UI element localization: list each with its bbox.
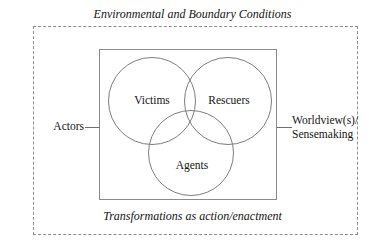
venn-label-agents: Agents bbox=[158, 160, 226, 172]
worldview-label-line1: Worldview(s)/ bbox=[292, 114, 382, 128]
diagram-canvas: Environmental and Boundary Conditions Vi… bbox=[0, 0, 385, 249]
actors-label: Actors bbox=[38, 121, 84, 133]
venn-circle-agents bbox=[148, 110, 234, 196]
transformations-caption: Transformations as action/enactment bbox=[0, 210, 385, 222]
actors-connector-line bbox=[85, 127, 100, 128]
worldview-connector-line bbox=[277, 127, 292, 128]
venn-label-rescuers: Rescuers bbox=[195, 95, 263, 107]
worldview-label-line2: Sensemaking bbox=[292, 128, 382, 142]
worldview-sensemaking-label: Worldview(s)/ Sensemaking bbox=[292, 114, 382, 141]
environmental-boundary-conditions-caption: Environmental and Boundary Conditions bbox=[0, 8, 385, 20]
venn-label-victims: Victims bbox=[118, 95, 186, 107]
